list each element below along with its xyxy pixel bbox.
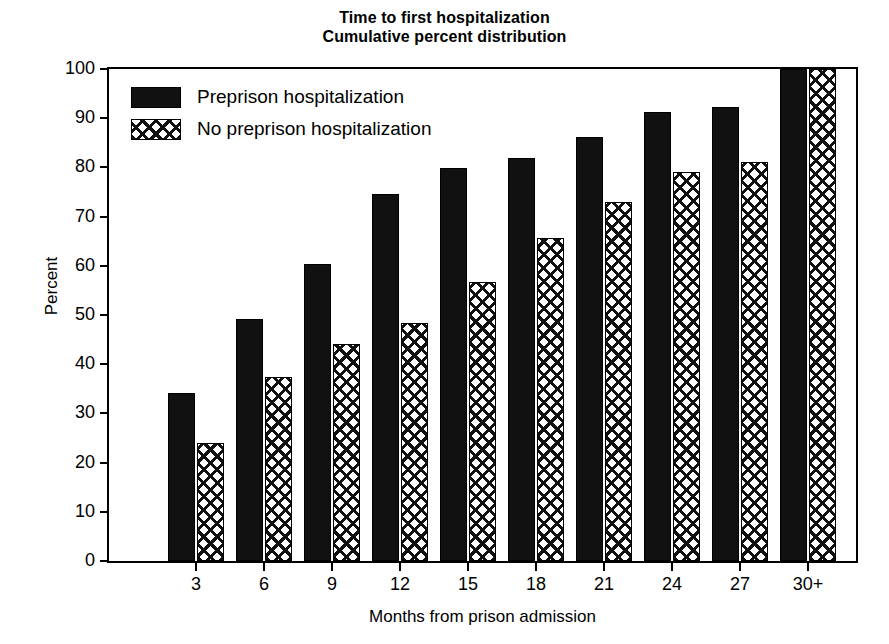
bar-preprison-9 xyxy=(304,264,331,561)
x-tick-mark xyxy=(671,561,673,571)
y-tick-mark xyxy=(100,314,109,316)
bar-preprison-18 xyxy=(508,158,535,561)
bar-no-preprison-6 xyxy=(265,377,292,561)
bar-preprison-21 xyxy=(576,137,603,561)
y-tick-label: 30 xyxy=(75,401,95,423)
x-tick-mark xyxy=(603,561,605,571)
bar-no-preprison-27 xyxy=(741,162,768,562)
bar-preprison-24 xyxy=(644,112,671,561)
x-tick-label: 24 xyxy=(642,573,702,595)
y-tick-mark xyxy=(100,560,109,562)
chart-legend: Preprison hospitalization No preprison h… xyxy=(131,81,431,145)
legend-label-no-preprison: No preprison hospitalization xyxy=(197,118,431,140)
bar-no-preprison-3 xyxy=(197,443,224,561)
chart-title-line-1: Time to first hospitalization xyxy=(0,8,889,27)
x-tick-label: 21 xyxy=(574,573,634,595)
legend-swatch-solid-icon xyxy=(131,87,181,108)
y-tick-mark xyxy=(100,462,109,464)
x-tick-mark xyxy=(399,561,401,571)
x-tick-mark xyxy=(195,561,197,571)
x-tick-label: 27 xyxy=(710,573,770,595)
x-tick-label: 12 xyxy=(370,573,430,595)
bar-no-preprison-12 xyxy=(401,323,428,561)
chart-title-line-2: Cumulative percent distribution xyxy=(0,27,889,46)
bar-no-preprison-21 xyxy=(605,202,632,561)
bar-preprison-27 xyxy=(712,107,739,561)
y-tick-label: 60 xyxy=(75,254,95,276)
x-tick-label: 3 xyxy=(166,573,226,595)
bar-preprison-12 xyxy=(372,194,399,561)
x-tick-mark xyxy=(739,561,741,571)
y-tick-mark xyxy=(100,511,109,513)
y-tick-label: 0 xyxy=(85,549,95,571)
chart-title: Time to first hospitalization Cumulative… xyxy=(0,8,889,46)
bar-no-preprison-30+ xyxy=(809,69,836,561)
y-tick-label: 80 xyxy=(75,155,95,177)
x-axis-label: Months from prison admission xyxy=(107,607,858,627)
y-tick-label: 40 xyxy=(75,352,95,374)
y-tick-mark xyxy=(100,363,109,365)
y-tick-label: 10 xyxy=(75,500,95,522)
bar-no-preprison-9 xyxy=(333,344,360,561)
bar-preprison-15 xyxy=(440,168,467,561)
bar-no-preprison-24 xyxy=(673,172,700,561)
x-tick-mark xyxy=(807,561,809,571)
y-tick-mark xyxy=(100,412,109,414)
y-axis-label: Percent xyxy=(42,226,62,346)
y-tick-label: 20 xyxy=(75,451,95,473)
legend-item-no-preprison: No preprison hospitalization xyxy=(131,113,431,145)
bar-no-preprison-15 xyxy=(469,282,496,561)
y-tick-label: 70 xyxy=(75,205,95,227)
y-tick-label: 90 xyxy=(75,106,95,128)
x-tick-label: 6 xyxy=(234,573,294,595)
y-tick-mark xyxy=(100,68,109,70)
x-tick-mark xyxy=(263,561,265,571)
x-tick-mark xyxy=(535,561,537,571)
plot-area: 0102030405060708090100 36912151821242730… xyxy=(107,67,858,563)
x-tick-mark xyxy=(331,561,333,571)
legend-swatch-hatch-icon xyxy=(131,119,181,140)
legend-item-preprison: Preprison hospitalization xyxy=(131,81,431,113)
bar-preprison-3 xyxy=(168,393,195,561)
legend-label-preprison: Preprison hospitalization xyxy=(197,86,404,108)
bar-preprison-30+ xyxy=(780,69,807,561)
y-tick-mark xyxy=(100,166,109,168)
y-tick-label: 100 xyxy=(65,57,95,79)
y-tick-mark xyxy=(100,216,109,218)
bar-preprison-6 xyxy=(236,319,263,561)
chart-figure: Time to first hospitalization Cumulative… xyxy=(0,0,889,644)
bar-no-preprison-18 xyxy=(537,238,564,561)
x-tick-mark xyxy=(467,561,469,571)
x-tick-label: 18 xyxy=(506,573,566,595)
x-tick-label: 9 xyxy=(302,573,362,595)
y-tick-mark xyxy=(100,117,109,119)
x-tick-label: 30+ xyxy=(778,573,838,595)
y-tick-label: 50 xyxy=(75,303,95,325)
x-tick-label: 15 xyxy=(438,573,498,595)
y-tick-mark xyxy=(100,265,109,267)
